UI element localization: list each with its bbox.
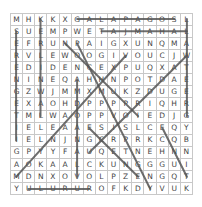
grid-cell[interactable]: F	[59, 146, 71, 158]
grid-cell[interactable]: N	[168, 146, 180, 158]
grid-cell[interactable]: Q	[156, 38, 168, 50]
grid-cell[interactable]: M	[71, 86, 83, 98]
grid-cell[interactable]: D	[132, 182, 144, 194]
grid-cell[interactable]: Y	[180, 122, 192, 134]
grid-cell[interactable]: U	[47, 182, 59, 194]
grid-cell[interactable]: A	[108, 14, 120, 26]
grid-cell[interactable]: S	[120, 122, 132, 134]
grid-cell[interactable]: H	[156, 26, 168, 38]
grid-cell[interactable]: A	[168, 26, 180, 38]
grid-cell[interactable]: L	[35, 134, 47, 146]
grid-cell[interactable]: U	[108, 158, 120, 170]
grid-cell[interactable]: P	[71, 38, 83, 50]
grid-cell[interactable]: C	[144, 122, 156, 134]
grid-cell[interactable]: M	[132, 26, 144, 38]
grid-cell[interactable]: K	[144, 134, 156, 146]
grid-cell[interactable]: I	[144, 98, 156, 110]
grid-cell[interactable]: C	[156, 50, 168, 62]
grid-cell[interactable]: D	[144, 86, 156, 98]
grid-cell[interactable]: O	[132, 74, 144, 86]
grid-cell[interactable]: L	[95, 14, 107, 26]
grid-cell[interactable]: R	[59, 182, 71, 194]
grid-cell[interactable]: U	[168, 182, 180, 194]
grid-cell[interactable]: N	[35, 74, 47, 86]
grid-cell[interactable]: A	[71, 74, 83, 86]
grid-cell[interactable]: L	[35, 122, 47, 134]
grid-cell[interactable]: A	[35, 98, 47, 110]
grid-cell[interactable]: L	[35, 182, 47, 194]
grid-cell[interactable]: E	[47, 122, 59, 134]
grid-cell[interactable]: K	[35, 14, 47, 26]
grid-cell[interactable]: I	[108, 122, 120, 134]
grid-cell[interactable]: Y	[35, 146, 47, 158]
grid-cell[interactable]: I	[11, 122, 23, 134]
grid-cell[interactable]: I	[132, 110, 144, 122]
grid-cell[interactable]: H	[156, 146, 168, 158]
grid-cell[interactable]: Q	[168, 134, 180, 146]
grid-cell[interactable]: X	[120, 38, 132, 50]
grid-cell[interactable]: K	[95, 158, 107, 170]
grid-cell[interactable]: J	[120, 26, 132, 38]
grid-cell[interactable]: T	[11, 110, 23, 122]
grid-cell[interactable]: E	[11, 62, 23, 74]
grid-cell[interactable]: A	[83, 14, 95, 26]
grid-cell[interactable]: K	[120, 182, 132, 194]
grid-cell[interactable]: J	[59, 134, 71, 146]
grid-cell[interactable]: Q	[168, 170, 180, 182]
grid-cell[interactable]: O	[59, 170, 71, 182]
grid-cell[interactable]: J	[47, 86, 59, 98]
grid-cell[interactable]: E	[47, 50, 59, 62]
grid-cell[interactable]: K	[120, 86, 132, 98]
grid-cell[interactable]: C	[83, 158, 95, 170]
grid-cell[interactable]: D	[156, 110, 168, 122]
grid-cell[interactable]: N	[120, 158, 132, 170]
grid-cell[interactable]: C	[95, 134, 107, 146]
grid-cell[interactable]: I	[108, 50, 120, 62]
grid-cell[interactable]: A	[71, 122, 83, 134]
grid-cell[interactable]: H	[168, 98, 180, 110]
grid-cell[interactable]: A	[180, 38, 192, 50]
grid-cell[interactable]: X	[83, 86, 95, 98]
grid-cell[interactable]: A	[83, 38, 95, 50]
grid-cell[interactable]: P	[95, 110, 107, 122]
grid-cell[interactable]: E	[95, 62, 107, 74]
grid-cell[interactable]: A	[11, 158, 23, 170]
grid-cell[interactable]: G	[11, 146, 23, 158]
grid-cell[interactable]: J	[168, 50, 180, 62]
grid-cell[interactable]: A	[108, 26, 120, 38]
grid-cell[interactable]: U	[23, 26, 35, 38]
grid-cell[interactable]: P	[83, 98, 95, 110]
grid-cell[interactable]: T	[95, 26, 107, 38]
grid-cell[interactable]: Y	[47, 146, 59, 158]
grid-cell[interactable]: O	[120, 110, 132, 122]
grid-cell[interactable]: N	[59, 38, 71, 50]
grid-cell[interactable]: L	[71, 158, 83, 170]
grid-cell[interactable]: E	[23, 122, 35, 134]
grid-cell[interactable]: K	[47, 14, 59, 26]
grid-cell[interactable]: G	[156, 158, 168, 170]
grid-cell[interactable]: W	[71, 26, 83, 38]
grid-cell[interactable]: T	[180, 62, 192, 74]
grid-cell[interactable]: L	[180, 14, 192, 26]
grid-cell[interactable]: E	[35, 26, 47, 38]
grid-cell[interactable]: N	[35, 170, 47, 182]
grid-cell[interactable]: Q	[59, 74, 71, 86]
grid-cell[interactable]: E	[132, 170, 144, 182]
grid-cell[interactable]: L	[180, 26, 192, 38]
grid-cell[interactable]: A	[59, 158, 71, 170]
grid-cell[interactable]: L	[35, 110, 47, 122]
grid-cell[interactable]: R	[83, 182, 95, 194]
grid-cell[interactable]: Y	[11, 182, 23, 194]
grid-cell[interactable]: P	[95, 98, 107, 110]
grid-cell[interactable]: M	[47, 26, 59, 38]
grid-cell[interactable]: I	[95, 38, 107, 50]
grid-cell[interactable]: G	[168, 86, 180, 98]
grid-cell[interactable]: A	[47, 158, 59, 170]
grid-cell[interactable]: G	[144, 158, 156, 170]
grid-cell[interactable]: U	[132, 62, 144, 74]
grid-cell[interactable]: Q	[95, 146, 107, 158]
grid-cell[interactable]: P	[83, 110, 95, 122]
grid-cell[interactable]: E	[11, 38, 23, 50]
grid-cell[interactable]: A	[168, 74, 180, 86]
grid-cell[interactable]: O	[71, 50, 83, 62]
